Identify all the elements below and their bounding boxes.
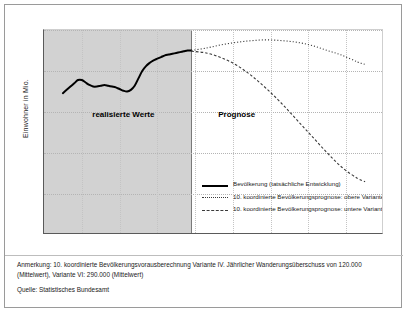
- y-tick-mark: [43, 71, 44, 72]
- legend-item: Bevölkerung (tatsächliche Entwicklung): [202, 180, 382, 189]
- figure-notes: Anmerkung: 10. koordinierte Bevölkerungs…: [5, 255, 403, 307]
- chart-legend: Bevölkerung (tatsächliche Entwicklung) 1…: [202, 180, 382, 218]
- source-line: Quelle: Statistisches Bundesamt: [17, 285, 391, 295]
- annotation-line-2: (Mittelwert), Variante VI: 290.000 (Mitt…: [17, 270, 391, 280]
- legend-swatch-solid-line-icon: [202, 180, 228, 189]
- figure-card: Einwohner in Mio. realisierte WerteProgn…: [4, 4, 402, 308]
- notes-divider: [5, 255, 403, 256]
- x-tick-mark: [271, 233, 272, 234]
- region-label: Prognose: [218, 109, 255, 118]
- legend-swatch-dashed-line-icon: [202, 205, 228, 214]
- x-tick-mark: [157, 233, 158, 234]
- x-tick-mark: [44, 233, 45, 234]
- legend-item: 10. koordinierte Bevölkerungsprognose: o…: [202, 193, 382, 202]
- x-tick-mark: [195, 233, 196, 234]
- region-label: realisierte Werte: [92, 109, 154, 118]
- series-line: [191, 40, 365, 65]
- y-tick-mark: [43, 112, 44, 113]
- y-tick-mark: [43, 30, 44, 31]
- y-tick-mark: [43, 194, 44, 195]
- x-tick-mark: [82, 233, 83, 234]
- y-axis-title: Einwohner in Mio.: [22, 49, 29, 169]
- population-projection-chart: Einwohner in Mio. realisierte WerteProgn…: [5, 5, 403, 255]
- legend-label: 10. koordinierte Bevölkerungsprognose: o…: [233, 194, 383, 201]
- plot-area: realisierte WertePrognose Bevölkerung (t…: [43, 29, 383, 234]
- legend-label: Bevölkerung (tatsächliche Entwicklung): [233, 181, 341, 188]
- x-tick-mark: [308, 233, 309, 234]
- x-tick-mark: [120, 233, 121, 234]
- legend-label: 10. koordinierte Bevölkerungsprognose: u…: [233, 206, 383, 213]
- x-tick-mark: [233, 233, 234, 234]
- legend-swatch-dotted-line-icon: [202, 193, 228, 202]
- x-tick-mark: [346, 233, 347, 234]
- legend-item: 10. koordinierte Bevölkerungsprognose: u…: [202, 205, 382, 214]
- annotation-line-1: Anmerkung: 10. koordinierte Bevölkerungs…: [17, 260, 391, 270]
- y-tick-mark: [43, 153, 44, 154]
- series-line: [63, 50, 191, 93]
